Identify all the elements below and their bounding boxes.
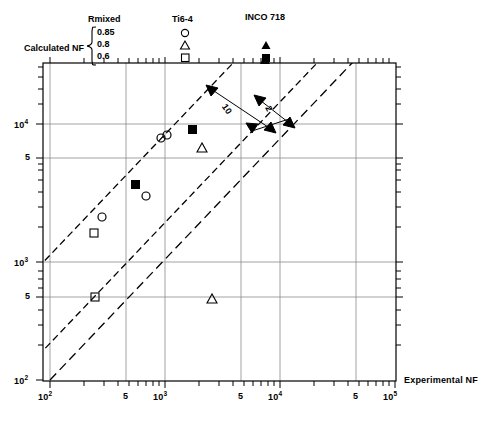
y-axis-right-ticks (396, 67, 403, 345)
x-tick-label-1e4: 104 (268, 390, 282, 402)
legend-marker-open-square (182, 54, 190, 62)
y-tick-label-1e2: 102 (14, 374, 28, 386)
x-axis-ticks (50, 381, 395, 388)
figure-root: Rmixed Ti6-4 INCO 718 Calculated NF 0.85… (0, 0, 482, 425)
legend-rmixed-value-0: 0.85 (97, 27, 115, 37)
legend-marker-open-circle (181, 29, 188, 36)
x-tick-label-1e2: 102 (38, 390, 52, 402)
x-tick-label-1e5: 105 (383, 390, 397, 402)
data-point-open-circle (142, 192, 150, 200)
legend-brace-label: Calculated NF (24, 43, 84, 53)
data-point-open-triangle (207, 294, 217, 303)
legend-rmixed-value-1: 0.8 (97, 39, 110, 49)
y-tick-label-1e4: 104 (14, 118, 28, 130)
legend-marker-open-triangle (181, 41, 190, 49)
x-tick-label-5e4: 5 (353, 391, 358, 401)
y-axis-ticks (36, 67, 43, 380)
data-point-open-square (90, 229, 98, 237)
plot-frame (43, 63, 396, 381)
legend-header-rmixed: Rmixed (88, 14, 121, 24)
legend-marker-filled-square (262, 54, 270, 62)
x-tick-label-5e2: 5 (123, 391, 128, 401)
legend-rmixed-value-2: 0.6 (97, 51, 110, 61)
legend-marker-filled-triangle (262, 41, 271, 49)
x-axis-title: Experimental NF (404, 375, 478, 385)
annotation-arrows (206, 85, 295, 133)
legend-header-inco718: INCO 718 (245, 12, 285, 22)
data-points (90, 55, 270, 303)
y-tick-label-5e2: 5 (25, 291, 30, 301)
data-point-open-triangle (197, 143, 207, 152)
data-point-open-circle (98, 213, 106, 221)
y-tick-label-1e3: 103 (14, 256, 28, 268)
y-tick-label-5e3: 5 (25, 152, 30, 162)
x-tick-label-1e3: 103 (153, 390, 167, 402)
data-point-filled-square (188, 125, 197, 134)
data-point-filled-square (131, 180, 140, 189)
grid-lines (43, 63, 396, 381)
legend-markers (150, 24, 450, 72)
legend-header-ti64: Ti6-4 (172, 14, 193, 24)
x-tick-label-5e3: 5 (238, 391, 243, 401)
